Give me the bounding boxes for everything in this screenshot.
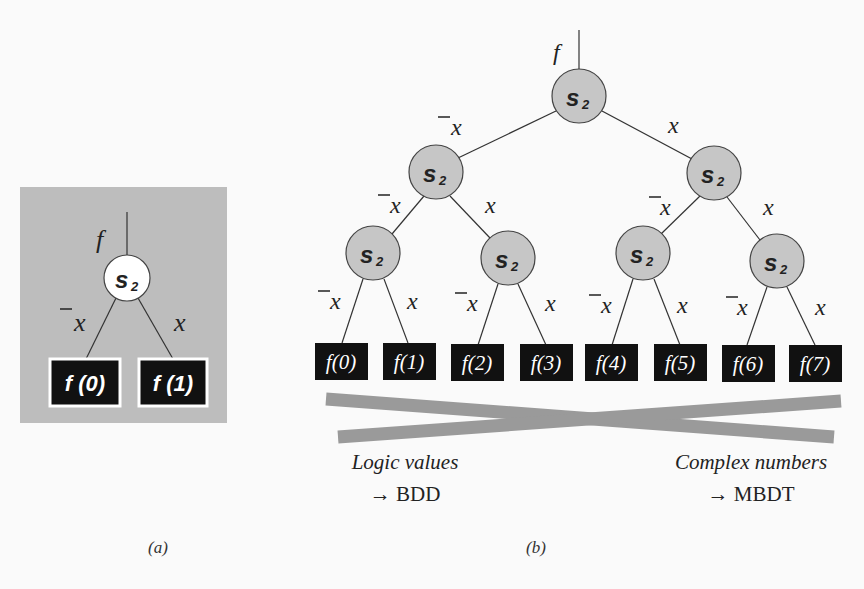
svg-text:2: 2 [130, 279, 139, 294]
edge-labels: x x x x x x x x x x x x x x [318, 112, 826, 320]
svg-text:s: s [115, 266, 128, 293]
leaf-f5: f(5) [654, 344, 707, 381]
cross-arrows [326, 399, 841, 437]
node-s2-l2-left: s 2 [409, 145, 463, 199]
annotation-mbdt: Complex numbers → MBDT [675, 450, 827, 506]
input-label-f: f [553, 39, 563, 65]
svg-text:s: s [566, 84, 579, 111]
caption-a: (a) [148, 538, 168, 557]
leaf-f7: f(7) [789, 345, 842, 382]
node-s2-l3-3: s 2 [750, 234, 804, 288]
svg-text:x: x [814, 294, 826, 320]
svg-text:→ BDD: → BDD [370, 482, 441, 506]
svg-text:f(6): f(6) [733, 352, 763, 376]
node-s2-l3-1: s 2 [481, 231, 535, 285]
svg-text:x: x [389, 192, 401, 218]
node-s2: s 2 [104, 255, 150, 301]
caption-b: (b) [526, 538, 546, 557]
edge-label-x: x [173, 308, 186, 337]
svg-text:f(0): f(0) [326, 350, 356, 374]
svg-text:2: 2 [438, 173, 447, 188]
svg-text:f (1): f (1) [153, 371, 193, 396]
svg-text:2: 2 [510, 259, 519, 274]
leaf-f1: f (1) [139, 359, 207, 406]
diagram-canvas: f s 2 x x f (0) f (1) (a) f [0, 0, 864, 589]
svg-text:f(4): f(4) [596, 351, 626, 375]
svg-text:x: x [667, 112, 679, 138]
svg-text:f(1): f(1) [394, 350, 424, 374]
svg-text:x: x [484, 192, 496, 218]
svg-text:f(5): f(5) [665, 351, 695, 375]
svg-text:2: 2 [779, 262, 788, 277]
node-s2-l3-2: s 2 [616, 226, 670, 280]
node-s2-l2-right: s 2 [687, 146, 741, 200]
leaf-f6: f(6) [722, 345, 775, 382]
svg-text:x: x [73, 308, 86, 337]
svg-text:2: 2 [645, 254, 654, 269]
svg-text:x: x [676, 292, 688, 318]
leaf-f1: f(1) [383, 343, 436, 380]
svg-text:x: x [600, 292, 612, 318]
svg-text:s: s [495, 246, 508, 273]
node-s2-root: s 2 [552, 69, 606, 123]
panel-a: f s 2 x x f (0) f (1) (a) [20, 187, 227, 557]
svg-text:s: s [701, 161, 714, 188]
leaf-f0: f (0) [50, 359, 120, 406]
svg-text:x: x [736, 294, 748, 320]
svg-text:x: x [659, 194, 671, 220]
svg-text:f(7): f(7) [800, 352, 830, 376]
leaf-f0: f(0) [315, 343, 368, 380]
svg-text:Logic values: Logic values [351, 450, 459, 474]
svg-text:x: x [329, 288, 341, 314]
svg-text:x: x [762, 194, 774, 220]
svg-text:x: x [450, 114, 462, 140]
svg-text:f (0): f (0) [65, 371, 105, 396]
svg-text:s: s [764, 249, 777, 276]
node-s2-l3-0: s 2 [346, 226, 400, 280]
svg-text:s: s [360, 241, 373, 268]
svg-text:2: 2 [716, 174, 725, 189]
leaf-f4: f(4) [585, 344, 638, 381]
svg-text:Complex numbers: Complex numbers [675, 450, 827, 474]
svg-text:s: s [423, 160, 436, 187]
svg-text:→ MBDT: → MBDT [708, 482, 795, 506]
svg-text:x: x [466, 290, 478, 316]
svg-text:2: 2 [581, 97, 590, 112]
svg-text:f(2): f(2) [462, 351, 492, 375]
svg-text:x: x [544, 290, 556, 316]
leaf-f3: f(3) [520, 344, 573, 381]
svg-text:x: x [406, 288, 418, 314]
annotation-bdd: Logic values → BDD [351, 450, 459, 506]
svg-text:2: 2 [375, 254, 384, 269]
panel-b: f s 2 s 2 [315, 30, 842, 557]
svg-text:s: s [630, 241, 643, 268]
svg-text:f(3): f(3) [531, 351, 561, 375]
leaf-f2: f(2) [451, 344, 504, 381]
